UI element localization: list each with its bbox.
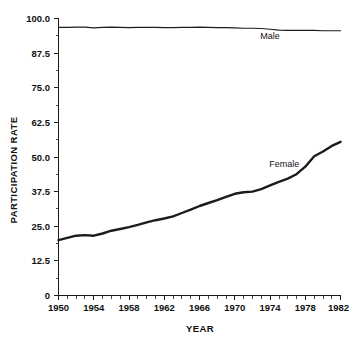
x-tick-label-1950: 1950: [48, 302, 69, 313]
y-tick-label-12-5: 12.5: [32, 255, 51, 266]
y-tick-label-87-5: 87.5: [32, 48, 51, 59]
x-tick-label-1982: 1982: [328, 302, 349, 313]
y-tick-label-25: 25.0: [32, 221, 51, 232]
x-tick-label-1958: 1958: [118, 302, 139, 313]
series-line-female: [59, 142, 341, 240]
series-label-male: Male: [260, 31, 280, 41]
series-label-female: Female: [269, 159, 299, 169]
y-tick-label-50: 50.0: [32, 152, 51, 163]
y-tick-label-62-5: 62.5: [32, 117, 51, 128]
x-tick-label-1962: 1962: [154, 302, 175, 313]
x-tick-label-1954: 1954: [83, 302, 105, 313]
y-axis-ticks: [54, 19, 59, 296]
y-axis-title: PARTICIPATION RATE: [8, 117, 19, 224]
x-tick-label-1970: 1970: [224, 302, 245, 313]
x-tick-label-1974: 1974: [260, 302, 282, 313]
y-tick-label-100: 100.0: [26, 13, 50, 24]
y-tick-label-0: 0: [45, 290, 50, 301]
y-tick-label-37-5: 37.5: [32, 186, 51, 197]
x-axis-title: YEAR: [186, 323, 214, 334]
x-axis-ticks: [59, 296, 341, 301]
chart-figure: 100.0 87.5 75.0 62.5 50.0 37.5 25.0 12.5…: [0, 0, 363, 342]
y-tick-label-75: 75.0: [32, 82, 51, 93]
x-tick-label-1978: 1978: [295, 302, 316, 313]
series-line-male: [59, 27, 341, 31]
x-tick-label-1966: 1966: [189, 302, 210, 313]
line-chart: 100.0 87.5 75.0 62.5 50.0 37.5 25.0 12.5…: [0, 0, 363, 342]
